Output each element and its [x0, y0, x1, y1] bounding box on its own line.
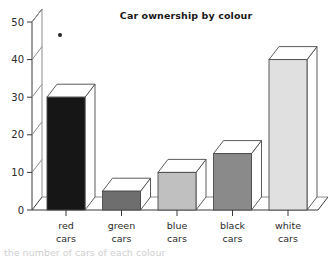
y-axis-wall — [32, 9, 42, 210]
floor-right-slant — [318, 197, 328, 210]
x-axis-label-line: cars — [278, 233, 298, 244]
x-axis-labels: redcarsgreencarsbluecarsblackcarswhiteca… — [56, 220, 301, 244]
bars-group — [47, 47, 317, 210]
bar-side-face — [307, 47, 317, 210]
y-axis-wall-rib — [32, 9, 42, 22]
bar-front-face — [214, 154, 252, 210]
x-axis-label-line: blue — [167, 220, 188, 231]
x-axis-label-line: red — [58, 220, 74, 231]
x-axis-label-line: cars — [223, 233, 243, 244]
bar-black-cars — [214, 141, 262, 210]
y-axis-tick-label: 20 — [11, 129, 24, 140]
y-axis-tick-label: 50 — [11, 17, 24, 28]
bar-front-face — [158, 172, 196, 210]
x-axis-ticks — [66, 210, 288, 216]
y-axis-tick-label: 30 — [11, 92, 24, 103]
y-axis-tick-label: 10 — [11, 167, 24, 178]
bar-blue-cars — [158, 159, 206, 210]
bar-chart: Car ownership by colour 01020304050 — [0, 0, 328, 257]
bar-white-cars — [269, 47, 317, 210]
x-axis-label-line: cars — [56, 233, 76, 244]
y-axis-wall-rib — [32, 159, 42, 172]
y-axis-tick-label: 40 — [11, 54, 24, 65]
y-axis-wall-rib — [32, 122, 42, 135]
bar-side-face — [85, 84, 95, 210]
x-axis-label-line: white — [275, 220, 301, 231]
bar-front-face — [47, 97, 85, 210]
y-axis-wall-rib — [32, 84, 42, 97]
x-axis-label-line: cars — [112, 233, 132, 244]
bar-red-cars — [47, 84, 95, 210]
ink-speck — [58, 33, 62, 37]
x-axis-label-line: green — [108, 220, 135, 231]
x-axis-label-line: black — [220, 220, 246, 231]
chart-title: Car ownership by colour — [120, 10, 253, 21]
y-axis-ticks: 01020304050 — [11, 17, 32, 216]
y-axis-wall-bottom-slant — [32, 197, 42, 210]
bar-front-face — [269, 60, 307, 210]
x-axis-label-line: cars — [167, 233, 187, 244]
chart-container: Car ownership by colour 01020304050 — [0, 0, 328, 257]
y-axis-tick-label: 0 — [18, 205, 24, 216]
bar-green-cars — [103, 178, 151, 210]
cropped-caption-text: the number of cars of each colour — [4, 247, 165, 257]
bar-front-face — [103, 191, 141, 210]
y-axis-wall-ribs — [32, 9, 42, 172]
y-axis-wall-rib — [32, 47, 42, 60]
